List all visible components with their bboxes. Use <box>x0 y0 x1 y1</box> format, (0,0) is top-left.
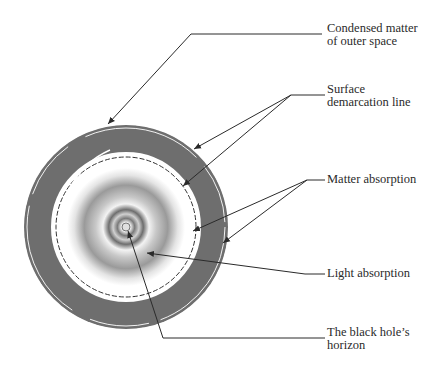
light-absorption-core <box>64 165 188 289</box>
label-condensed-matter: Condensed matter of outer space <box>327 22 418 48</box>
label-matter-absorption: Matter absorption <box>327 173 416 186</box>
label-surface-demarcation: Surface demarcation line <box>327 83 411 109</box>
leader-condensed <box>108 34 322 124</box>
label-horizon: The black hole’s horizon <box>327 326 410 352</box>
label-light-absorption: Light absorption <box>327 267 410 280</box>
leader-surface-2 <box>183 95 291 186</box>
